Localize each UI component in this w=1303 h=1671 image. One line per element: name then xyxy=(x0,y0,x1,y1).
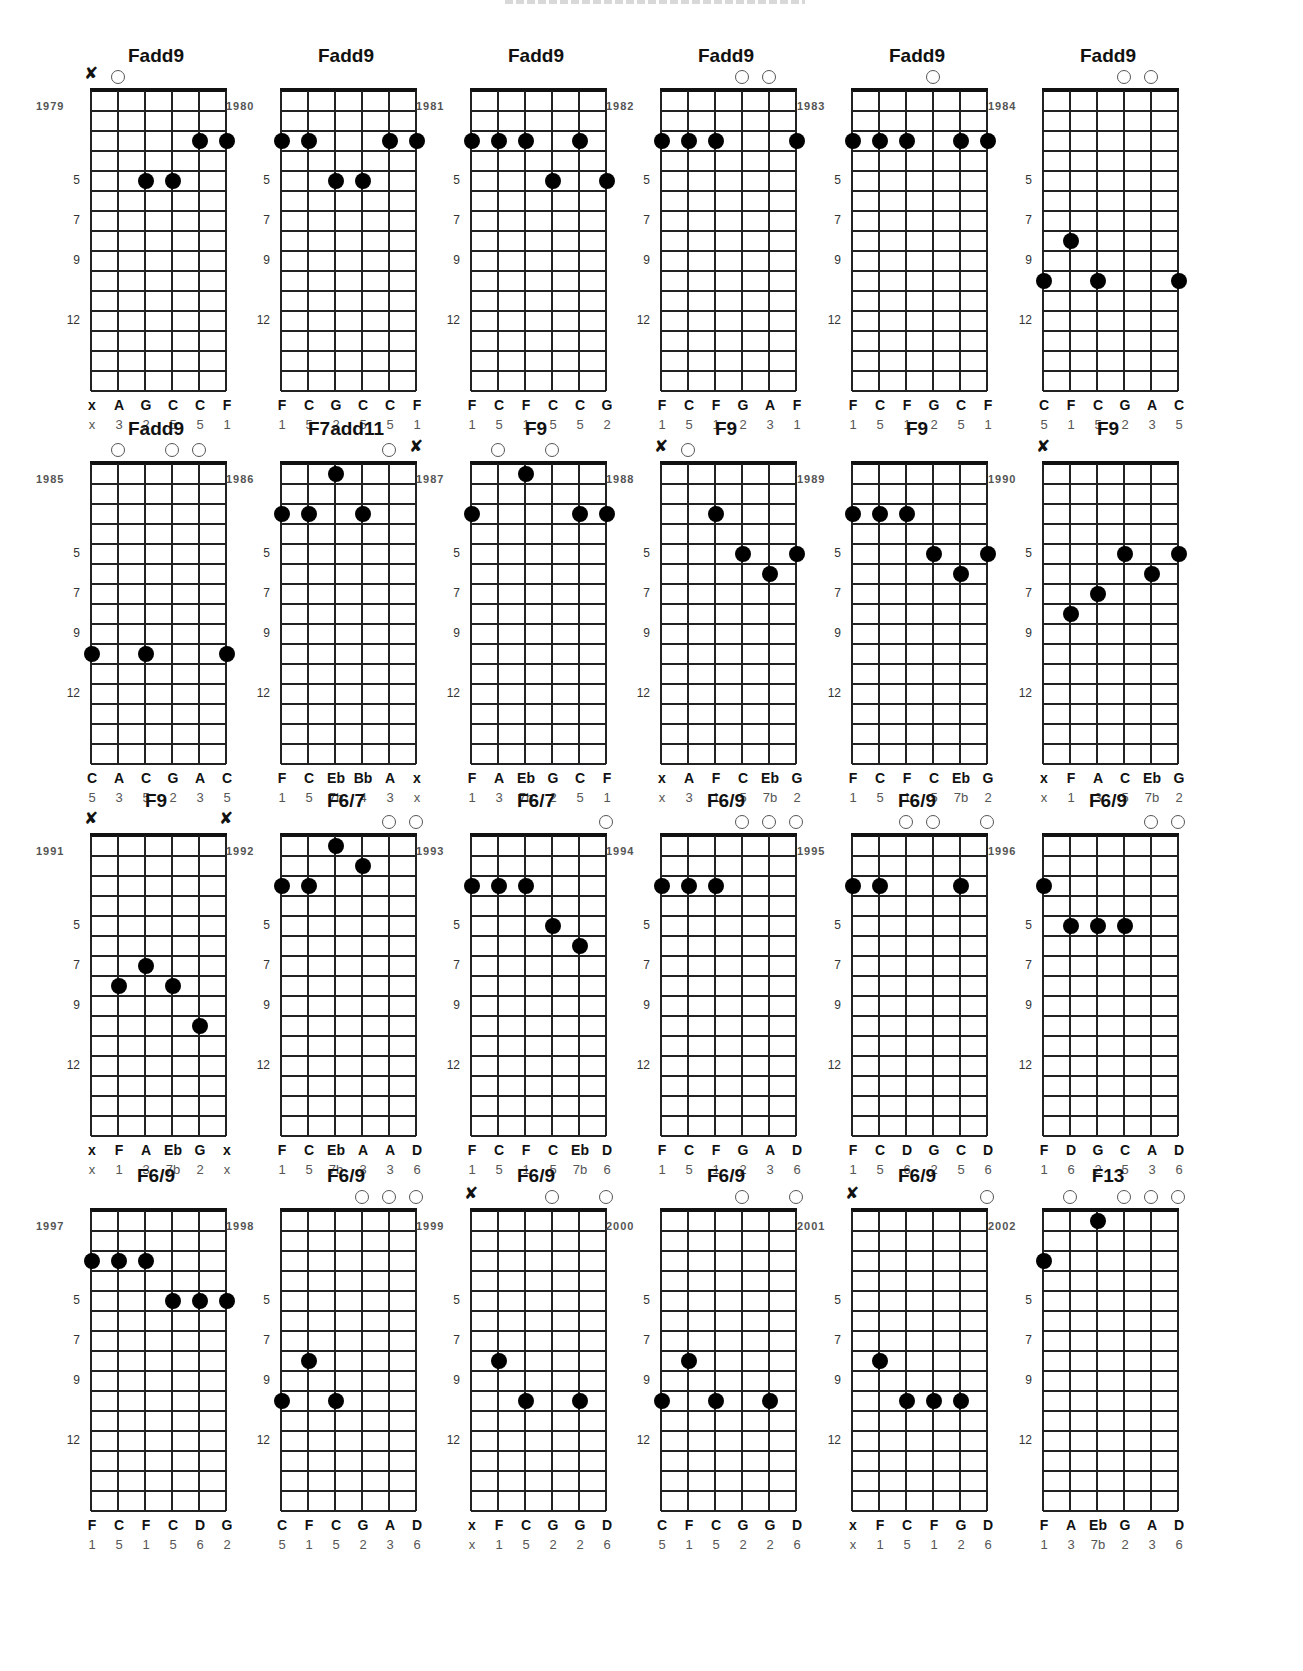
muted-string-icon: ✘ xyxy=(84,810,98,827)
note-names-row: xAFCEbG xyxy=(661,770,796,788)
string-line xyxy=(932,1211,934,1511)
note-names-row: FDGCAD xyxy=(1043,1142,1178,1160)
fret-number-label: 9 xyxy=(236,998,270,1012)
open-string-icon xyxy=(1144,815,1158,829)
fret-line xyxy=(281,975,416,977)
fret-line xyxy=(661,1410,796,1412)
fret-line xyxy=(1043,1075,1178,1077)
fret-line xyxy=(852,1035,987,1037)
note-name: F xyxy=(514,1142,538,1158)
note-name: G xyxy=(568,1517,592,1533)
note-name: C xyxy=(677,397,701,413)
fret-number-label: 12 xyxy=(236,1058,270,1072)
note-name: F xyxy=(1059,397,1083,413)
note-names-row: xFCGGD xyxy=(471,1517,606,1535)
open-string-icon xyxy=(1117,1190,1131,1204)
fret-line xyxy=(1043,543,1178,545)
fret-line xyxy=(852,1510,987,1512)
fret-line xyxy=(661,483,796,485)
finger-dot xyxy=(545,173,561,189)
finger-dot xyxy=(491,133,507,149)
year-label: 1980 xyxy=(226,100,254,112)
fret-line xyxy=(281,1075,416,1077)
scale-degree: 2 xyxy=(949,1537,973,1552)
string-line xyxy=(768,91,770,391)
note-name: G xyxy=(949,1517,973,1533)
finger-dot xyxy=(572,506,588,522)
scale-degree: 5 xyxy=(895,1537,919,1552)
string-line xyxy=(1177,836,1179,1136)
note-names-row: FAEbGAD xyxy=(1043,1517,1178,1535)
finger-dot xyxy=(274,878,290,894)
note-name: A xyxy=(134,1142,158,1158)
chord-name: F6/9 xyxy=(656,1165,796,1187)
fret-line xyxy=(1043,563,1178,565)
fret-line xyxy=(471,563,606,565)
nut xyxy=(851,1208,988,1212)
note-name: Eb xyxy=(949,770,973,786)
fret-line xyxy=(1043,1430,1178,1432)
string-line xyxy=(1096,464,1098,764)
fret-line xyxy=(471,330,606,332)
note-name: F xyxy=(1032,1142,1056,1158)
fret-number-label: 12 xyxy=(807,686,841,700)
string-line xyxy=(768,464,770,764)
finger-dot xyxy=(301,506,317,522)
fret-number-label: 5 xyxy=(426,173,460,187)
note-name: C xyxy=(868,397,892,413)
fret-line xyxy=(852,1310,987,1312)
fret-line xyxy=(852,915,987,917)
note-names-row: xFCFGD xyxy=(852,1517,987,1535)
finger-dot xyxy=(491,1353,507,1369)
fretboard-grid: ✘✘ xyxy=(91,836,226,1136)
fret-line xyxy=(471,1290,606,1292)
fret-line xyxy=(91,330,226,332)
fret-line xyxy=(281,270,416,272)
fret-number-label: 12 xyxy=(426,686,460,700)
fret-line xyxy=(281,483,416,485)
nut xyxy=(470,461,607,465)
fret-line xyxy=(281,683,416,685)
fret-line xyxy=(91,895,226,897)
chord-diagram: F6/9199657912FDGCAD162536 xyxy=(988,790,1198,1150)
note-name: F xyxy=(704,1142,728,1158)
string-line xyxy=(905,836,907,1136)
note-name: F xyxy=(895,397,919,413)
open-string-icon xyxy=(681,443,695,457)
string-line xyxy=(1069,1211,1071,1511)
fret-line xyxy=(91,1075,226,1077)
string-line xyxy=(388,464,390,764)
finger-dot xyxy=(1063,606,1079,622)
note-name: A xyxy=(378,1517,402,1533)
finger-dot xyxy=(899,1393,915,1409)
scale-degrees-row: 515226 xyxy=(661,1537,796,1555)
chord-name: F13 xyxy=(1038,1165,1178,1187)
fret-number-label: 12 xyxy=(426,1433,460,1447)
fret-number-label: 9 xyxy=(236,626,270,640)
fret-line xyxy=(852,995,987,997)
finger-dot xyxy=(192,1018,208,1034)
fret-line xyxy=(1043,190,1178,192)
year-label: 1999 xyxy=(416,1220,444,1232)
fret-line xyxy=(281,1370,416,1372)
finger-dot xyxy=(192,1293,208,1309)
chord-name: F6/9 xyxy=(1038,790,1178,812)
open-string-icon xyxy=(1063,1190,1077,1204)
fret-line xyxy=(281,543,416,545)
note-name: F xyxy=(460,1142,484,1158)
fret-line xyxy=(91,1430,226,1432)
note-name: x xyxy=(80,1142,104,1158)
year-label: 1985 xyxy=(36,473,64,485)
chord-diagram: F6/9200057912CFCGGD515226 xyxy=(606,1165,816,1525)
finger-dot xyxy=(1117,546,1133,562)
fret-line xyxy=(852,1410,987,1412)
fret-number-label: 9 xyxy=(236,1373,270,1387)
fret-line xyxy=(91,1470,226,1472)
fret-line xyxy=(1043,130,1178,132)
scale-degree: 2 xyxy=(731,1537,755,1552)
chord-name: F9 xyxy=(656,418,796,440)
note-name: G xyxy=(324,397,348,413)
muted-string-icon: ✘ xyxy=(654,438,668,455)
fret-line xyxy=(91,270,226,272)
finger-dot xyxy=(301,133,317,149)
